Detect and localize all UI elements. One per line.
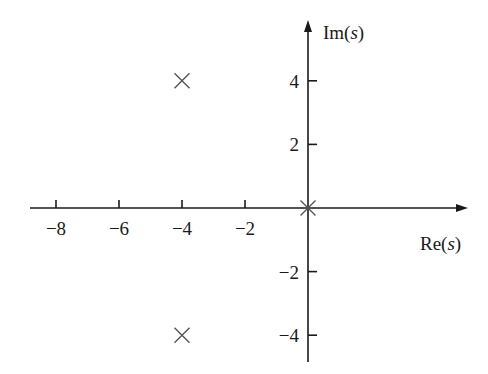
x-tick-label: −6 (109, 218, 129, 239)
x-tick-label: −8 (46, 218, 66, 239)
y-axis-arrow-icon (304, 20, 312, 32)
y-axis-label: Im(s) (323, 22, 364, 44)
x-tick-label: −4 (172, 218, 193, 239)
pole-zero-plot: −8−6−4−242−2−4Re(s)Im(s) (0, 0, 488, 374)
y-tick-label: 2 (290, 134, 300, 155)
y-tick-label: −2 (279, 262, 299, 283)
pole-x-marker-icon (175, 73, 190, 88)
y-tick-label: −4 (279, 325, 300, 346)
x-tick-label: −2 (235, 218, 255, 239)
y-tick-label: 4 (290, 71, 300, 92)
x-axis-label: Re(s) (420, 233, 461, 255)
x-axis-arrow-icon (456, 204, 468, 212)
pole-x-marker-icon (175, 328, 190, 343)
